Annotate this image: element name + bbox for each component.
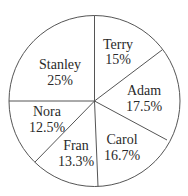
slice-label-name: Nora [33, 104, 62, 119]
slice-carol: Carol 16.7% [104, 132, 141, 163]
slice-label-pct: 15% [105, 52, 131, 67]
slice-label-name: Adam [127, 83, 161, 98]
slice-label-name: Fran [63, 138, 89, 153]
slice-label-pct: 16.7% [104, 148, 141, 163]
slice-adam: Adam 17.5% [126, 83, 163, 114]
slice-label-pct: 17.5% [126, 99, 163, 114]
slice-label-pct: 13.3% [58, 154, 95, 169]
slice-label-pct: 25% [47, 73, 73, 88]
slice-nora: Nora 12.5% [29, 104, 66, 135]
slice-label-name: Carol [106, 132, 137, 147]
slice-label-name: Stanley [39, 57, 81, 72]
pie-chart: Terry 15% Adam 17.5% Carol 16.7% Fran 13… [0, 0, 188, 196]
slice-label-pct: 12.5% [29, 120, 66, 135]
slice-label-name: Terry [103, 37, 133, 52]
slice-terry: Terry 15% [103, 37, 133, 67]
